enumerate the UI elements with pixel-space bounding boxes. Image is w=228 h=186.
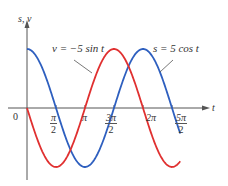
origin-label: 0 [13, 112, 18, 122]
tick-label-2pi: 2π [146, 113, 156, 123]
y-axis-label: s, v [18, 14, 31, 24]
tick-label-pi-over-2: π 2 [50, 113, 57, 135]
tick-label-pi: π [82, 113, 87, 123]
x-axis-arrow-icon [202, 106, 210, 111]
tick-label-5pi-over-2: 5π 2 [175, 113, 187, 135]
annotation-v-leader [74, 60, 92, 73]
chart-canvas [0, 0, 228, 186]
x-axis-label: t [212, 103, 215, 113]
annotation-s: s = 5 cos t [153, 43, 199, 54]
annotation-v: v = −5 sin t [52, 43, 104, 54]
tick-label-3pi-over-2: 3π 2 [105, 113, 117, 135]
annotation-s-leader [160, 60, 173, 72]
